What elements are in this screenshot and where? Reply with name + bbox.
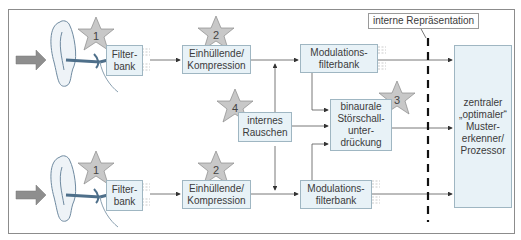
envelope-compression-box-top: Einhüllende/Kompression bbox=[182, 45, 251, 74]
filterbank-box-top: Filter-bank bbox=[106, 45, 143, 76]
modulation-label-line1: Modulations- bbox=[307, 183, 364, 195]
filterbank-label-line2: bank bbox=[112, 196, 138, 208]
svg-text:2: 2 bbox=[213, 164, 219, 176]
processor-label-line4: erkenner/ bbox=[459, 133, 507, 145]
internal-representation-text: interne Repräsentation bbox=[373, 15, 474, 26]
binaural-label-line2: Störschall- bbox=[337, 113, 384, 125]
modulation-filterbank-box-bottom: Modulations-filterbank bbox=[300, 180, 372, 209]
svg-text:2: 2 bbox=[213, 29, 219, 41]
modulation-channel-ticks-top bbox=[378, 47, 386, 69]
binaural-label-line3: unter- bbox=[337, 125, 384, 137]
filterbank-channel-ticks-bottom bbox=[142, 184, 150, 205]
processor-label-line2: „optimaler“ bbox=[459, 109, 507, 121]
processor-label-line5: Prozessor bbox=[459, 145, 507, 157]
binaural-suppression-box: binauraleStörschall-unter-drückung bbox=[330, 99, 392, 151]
envelope-label-line1: Einhüllende/ bbox=[187, 48, 245, 60]
binaural-label-line1: binaurale bbox=[337, 101, 384, 113]
central-processor-box: zentraler„optimaler“Muster-erkenner/Proz… bbox=[454, 45, 512, 208]
input-arrow-bottom bbox=[16, 185, 46, 205]
modulation-label-line2: filterbank bbox=[310, 59, 367, 71]
envelope-label-line2: Kompression bbox=[187, 60, 245, 72]
modulation-channel-ticks-bottom bbox=[372, 181, 380, 203]
filterbank-channel-ticks-top bbox=[142, 49, 150, 70]
noise-label-line1: internes bbox=[242, 115, 287, 127]
filterbank-label-line1: Filter- bbox=[112, 49, 138, 61]
filterbank-label-line2: bank bbox=[112, 61, 138, 73]
internal-noise-box: internesRauschen bbox=[238, 112, 292, 142]
svg-text:1: 1 bbox=[93, 164, 99, 176]
modulation-filterbank-box-top: Modulations-filterbank bbox=[300, 44, 378, 73]
envelope-compression-box-bottom: Einhüllende/Kompression bbox=[182, 180, 251, 209]
envelope-label-line1: Einhüllende/ bbox=[187, 183, 245, 195]
modulation-label-line1: Modulations- bbox=[310, 47, 367, 59]
envelope-label-line2: Kompression bbox=[187, 195, 245, 207]
processor-label-line1: zentraler bbox=[459, 97, 507, 109]
svg-text:3: 3 bbox=[394, 94, 400, 106]
processor-label-line3: Muster- bbox=[459, 121, 507, 133]
input-arrow-top bbox=[16, 50, 46, 70]
svg-text:1: 1 bbox=[93, 30, 99, 42]
signal-connectors bbox=[150, 60, 452, 194]
modulation-label-line2: filterbank bbox=[307, 195, 364, 207]
filterbank-box-bottom: Filter-bank bbox=[106, 180, 143, 211]
internal-representation-label: interne Repräsentation bbox=[368, 13, 479, 29]
binaural-label-line4: drückung bbox=[337, 137, 384, 149]
noise-label-line2: Rauschen bbox=[242, 127, 287, 139]
filterbank-label-line1: Filter- bbox=[112, 184, 138, 196]
